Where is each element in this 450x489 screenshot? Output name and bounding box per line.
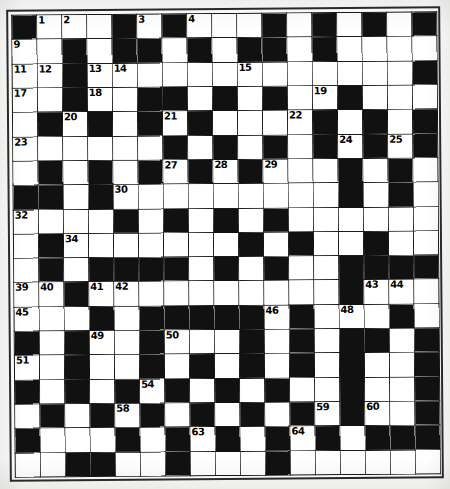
crossword-open-cell[interactable]: [315, 450, 340, 475]
crossword-open-cell[interactable]: [38, 136, 63, 161]
crossword-open-cell[interactable]: [14, 258, 39, 283]
crossword-open-cell[interactable]: 27: [163, 160, 188, 185]
crossword-open-cell[interactable]: [237, 13, 262, 38]
crossword-open-cell[interactable]: [363, 182, 388, 207]
crossword-open-cell[interactable]: [63, 160, 88, 185]
crossword-open-cell[interactable]: [37, 88, 62, 113]
crossword-open-cell[interactable]: [164, 281, 189, 306]
crossword-open-cell[interactable]: 30: [113, 184, 138, 209]
crossword-open-cell[interactable]: [412, 85, 437, 110]
crossword-open-cell[interactable]: [314, 280, 339, 305]
crossword-open-cell[interactable]: [290, 450, 315, 475]
crossword-open-cell[interactable]: [415, 449, 440, 474]
crossword-open-cell[interactable]: [289, 256, 314, 281]
crossword-open-cell[interactable]: 15: [237, 62, 262, 87]
crossword-open-cell[interactable]: [214, 281, 239, 306]
crossword-open-cell[interactable]: [289, 280, 314, 305]
crossword-open-cell[interactable]: [264, 353, 289, 378]
crossword-open-cell[interactable]: [164, 354, 189, 379]
crossword-open-cell[interactable]: [165, 403, 190, 428]
crossword-open-cell[interactable]: [340, 426, 365, 451]
crossword-open-cell[interactable]: [112, 111, 137, 136]
crossword-open-cell[interactable]: [313, 207, 338, 232]
crossword-open-cell[interactable]: [212, 38, 237, 63]
crossword-open-cell[interactable]: [237, 86, 262, 111]
crossword-open-cell[interactable]: [12, 112, 37, 137]
crossword-open-cell[interactable]: 51: [14, 355, 39, 380]
crossword-open-cell[interactable]: [365, 450, 390, 475]
crossword-open-cell[interactable]: [15, 453, 40, 478]
crossword-open-cell[interactable]: [315, 377, 340, 402]
crossword-open-cell[interactable]: [15, 404, 40, 429]
crossword-open-cell[interactable]: [413, 206, 438, 231]
crossword-open-cell[interactable]: [212, 62, 237, 87]
crossword-open-cell[interactable]: [188, 208, 213, 233]
crossword-open-cell[interactable]: 50: [164, 330, 189, 355]
crossword-open-cell[interactable]: 58: [115, 403, 140, 428]
crossword-open-cell[interactable]: [189, 257, 214, 282]
crossword-open-cell[interactable]: 20: [62, 112, 87, 137]
crossword-open-cell[interactable]: [240, 427, 265, 452]
crossword-open-cell[interactable]: [138, 184, 163, 209]
crossword-open-cell[interactable]: [363, 207, 388, 232]
crossword-open-cell[interactable]: [187, 62, 212, 87]
crossword-open-cell[interactable]: [162, 38, 187, 63]
crossword-open-cell[interactable]: [314, 353, 339, 378]
crossword-open-cell[interactable]: 18: [87, 87, 112, 112]
crossword-open-cell[interactable]: [87, 14, 112, 39]
crossword-open-cell[interactable]: [214, 354, 239, 379]
crossword-open-cell[interactable]: [38, 209, 63, 234]
crossword-open-cell[interactable]: [264, 280, 289, 305]
crossword-open-cell[interactable]: [314, 256, 339, 281]
crossword-grid[interactable]: 1234911121314151718192021222324252728293…: [11, 11, 441, 477]
crossword-open-cell[interactable]: 32: [13, 209, 38, 234]
crossword-open-cell[interactable]: [313, 183, 338, 208]
crossword-open-cell[interactable]: [115, 452, 140, 477]
crossword-open-cell[interactable]: [13, 161, 38, 186]
crossword-open-cell[interactable]: 11: [12, 64, 37, 89]
crossword-open-cell[interactable]: [137, 63, 162, 88]
crossword-open-cell[interactable]: [238, 208, 263, 233]
crossword-open-cell[interactable]: 24: [338, 134, 363, 159]
crossword-open-cell[interactable]: [390, 377, 415, 402]
crossword-grid-container[interactable]: 1234911121314151718192021222324252728293…: [11, 11, 439, 476]
crossword-open-cell[interactable]: [288, 183, 313, 208]
crossword-open-cell[interactable]: [387, 109, 412, 134]
crossword-open-cell[interactable]: [387, 36, 412, 61]
crossword-open-cell[interactable]: [287, 86, 312, 111]
crossword-open-cell[interactable]: [162, 62, 187, 87]
crossword-open-cell[interactable]: [40, 379, 65, 404]
crossword-open-cell[interactable]: [188, 184, 213, 209]
crossword-open-cell[interactable]: 4: [187, 14, 212, 39]
crossword-open-cell[interactable]: [63, 136, 88, 161]
crossword-open-cell[interactable]: [190, 451, 215, 476]
crossword-open-cell[interactable]: [138, 233, 163, 258]
crossword-open-cell[interactable]: [337, 61, 362, 86]
crossword-open-cell[interactable]: [387, 12, 412, 37]
crossword-open-cell[interactable]: 21: [162, 111, 187, 136]
crossword-open-cell[interactable]: [287, 61, 312, 86]
crossword-open-cell[interactable]: 2: [62, 15, 87, 40]
crossword-open-cell[interactable]: [188, 135, 213, 160]
crossword-open-cell[interactable]: [64, 258, 89, 283]
crossword-open-cell[interactable]: [287, 13, 312, 38]
crossword-open-cell[interactable]: [239, 281, 264, 306]
crossword-open-cell[interactable]: 9: [12, 39, 37, 64]
crossword-open-cell[interactable]: [90, 379, 115, 404]
crossword-open-cell[interactable]: [37, 39, 62, 64]
crossword-open-cell[interactable]: [288, 134, 313, 159]
crossword-open-cell[interactable]: [264, 329, 289, 354]
crossword-open-cell[interactable]: [312, 61, 337, 86]
crossword-open-cell[interactable]: [138, 136, 163, 161]
crossword-open-cell[interactable]: [114, 355, 139, 380]
crossword-open-cell[interactable]: [189, 281, 214, 306]
crossword-open-cell[interactable]: [240, 451, 265, 476]
crossword-open-cell[interactable]: [63, 185, 88, 210]
crossword-open-cell[interactable]: [39, 331, 64, 356]
crossword-open-cell[interactable]: 63: [190, 427, 215, 452]
crossword-open-cell[interactable]: [88, 136, 113, 161]
crossword-open-cell[interactable]: [65, 404, 90, 429]
crossword-open-cell[interactable]: [412, 36, 437, 61]
crossword-open-cell[interactable]: [163, 184, 188, 209]
crossword-open-cell[interactable]: [139, 281, 164, 306]
